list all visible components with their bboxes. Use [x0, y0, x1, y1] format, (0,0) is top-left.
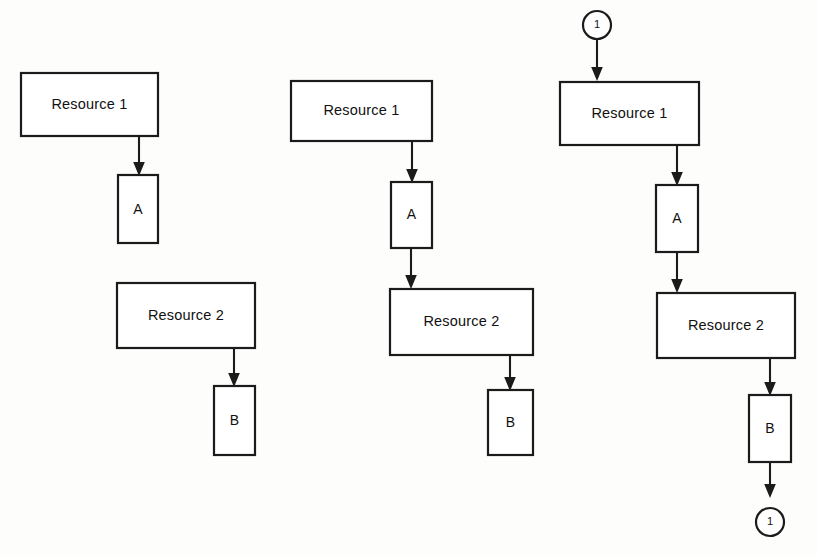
- node-resource-1-panel-2[interactable]: Resource 1: [291, 81, 432, 141]
- arrowhead-icon: [405, 275, 417, 289]
- arrowhead-icon: [504, 377, 516, 391]
- panel-stage-one: Resource 1 A Resource 2: [21, 73, 255, 455]
- connector-in-label: 1: [594, 18, 600, 30]
- resource-allocation-diagram: Resource 1 A Resource 2: [0, 0, 817, 556]
- edge-resource1-to-a-panel-3: [671, 145, 683, 186]
- process-a-label: A: [672, 210, 682, 226]
- process-a-label: A: [407, 206, 417, 222]
- process-b-label: B: [506, 414, 515, 430]
- node-process-b-panel-1[interactable]: B: [214, 386, 255, 455]
- process-a-label: A: [133, 201, 143, 217]
- arrowhead-icon: [133, 162, 145, 176]
- resource-1-label: Resource 1: [51, 96, 127, 112]
- node-process-a-panel-3[interactable]: A: [656, 185, 698, 252]
- arrowhead-icon: [228, 373, 240, 387]
- arrowhead-icon: [671, 279, 683, 293]
- edge-b-to-connector-panel-3: [764, 462, 776, 498]
- resource-2-label: Resource 2: [423, 313, 499, 329]
- arrowhead-icon: [764, 382, 776, 396]
- resource-1-label: Resource 1: [323, 102, 399, 118]
- edge-connector-to-resource1-panel-3: [591, 39, 603, 81]
- arrowhead-icon: [764, 484, 776, 498]
- node-process-a-panel-2[interactable]: A: [391, 182, 432, 248]
- edge-a-to-resource2-panel-2: [405, 248, 417, 289]
- node-resource-2-panel-3[interactable]: Resource 2: [657, 293, 795, 358]
- edge-resource2-to-b-panel-3: [764, 358, 776, 396]
- node-resource-1-panel-1[interactable]: Resource 1: [21, 73, 158, 136]
- arrowhead-icon: [671, 172, 683, 186]
- process-b-label: B: [765, 420, 774, 436]
- diagram-root: Resource 1 A Resource 2: [0, 0, 817, 556]
- edge-resource1-to-a-panel-2: [406, 141, 418, 183]
- edge-resource2-to-b-panel-1: [228, 348, 240, 387]
- edge-resource2-to-b-panel-2: [504, 355, 516, 391]
- node-resource-2-panel-1[interactable]: Resource 2: [117, 283, 255, 348]
- connector-out-panel-3[interactable]: 1: [756, 508, 784, 536]
- node-resource-2-panel-2[interactable]: Resource 2: [390, 289, 533, 355]
- connector-out-label: 1: [767, 515, 773, 527]
- resource-1-label: Resource 1: [591, 105, 667, 121]
- panel-stage-two: Resource 1 A Resource 2: [291, 81, 533, 455]
- arrowhead-icon: [591, 67, 603, 81]
- arrowhead-icon: [406, 169, 418, 183]
- node-process-b-panel-3[interactable]: B: [749, 395, 791, 462]
- edge-a-to-resource2-panel-3: [671, 252, 683, 293]
- connector-in-panel-3[interactable]: 1: [583, 11, 611, 39]
- node-process-a-panel-1[interactable]: A: [118, 175, 158, 243]
- node-resource-1-panel-3[interactable]: Resource 1: [560, 82, 699, 145]
- resource-2-label: Resource 2: [148, 307, 224, 323]
- process-b-label: B: [230, 412, 239, 428]
- node-process-b-panel-2[interactable]: B: [488, 390, 533, 455]
- resource-2-label: Resource 2: [688, 317, 764, 333]
- edge-resource1-to-a-panel-1: [133, 136, 145, 176]
- panel-stage-three: 1 Resource 1 A: [560, 11, 795, 536]
